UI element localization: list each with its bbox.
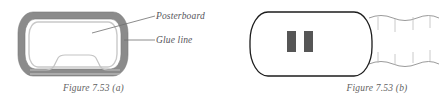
glue-line-contour xyxy=(29,22,117,67)
figure-caption-b: Figure 7.53 (b) xyxy=(265,83,447,93)
corrugated-flute-edge xyxy=(369,15,439,67)
figure-page: Posterboard Glue line Figure 7.53 (a) xyxy=(0,0,447,101)
callout-label-glue-line: Glue line xyxy=(156,35,192,45)
figure-panel-b: Figure 7.53 (b) xyxy=(223,0,447,101)
figure-panel-a: Posterboard Glue line Figure 7.53 (a) xyxy=(0,0,223,101)
glue-tab-right xyxy=(304,31,313,52)
callout-label-posterboard: Posterboard xyxy=(156,11,205,21)
glue-tab-left xyxy=(287,31,296,52)
figure-caption-a: Figure 7.53 (a) xyxy=(0,83,205,93)
